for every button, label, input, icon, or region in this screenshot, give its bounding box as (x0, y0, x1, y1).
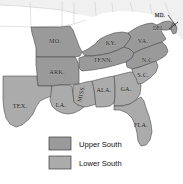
legend-label-upper-south: Upper South (79, 140, 122, 149)
legend-swatch-upper-south (49, 137, 71, 150)
state-label-arkansas: ARK. (49, 68, 65, 75)
state-label-virginia: VA. (138, 37, 149, 44)
state-label-north-carolina: N.C. (142, 56, 155, 63)
state-label-alabama: ALA. (96, 86, 111, 93)
state-label-louisiana: LA. (56, 101, 67, 108)
map-canvas: MO. KY. VA. MD. DEL. TENN. ARK. N.C. S.C… (0, 0, 183, 184)
southern-states-map-figure: MO. KY. VA. MD. DEL. TENN. ARK. N.C. S.C… (0, 0, 183, 184)
state-label-maryland: MD. (155, 12, 165, 18)
legend-swatch-lower-south (49, 156, 71, 169)
legend-label-lower-south: Lower South (79, 159, 122, 168)
state-label-tennessee: TENN. (93, 56, 112, 63)
state-label-south-carolina: S.C. (137, 71, 149, 78)
state-label-delaware: DEL. (153, 25, 165, 31)
map-legend: Upper South Lower South (49, 137, 122, 169)
state-label-missouri: MO. (49, 37, 61, 44)
state-label-florida: FLA. (134, 121, 148, 128)
state-label-kentucky: KY. (106, 39, 117, 46)
state-label-georgia: GA. (120, 85, 131, 92)
state-label-texas: TEX. (13, 102, 28, 109)
